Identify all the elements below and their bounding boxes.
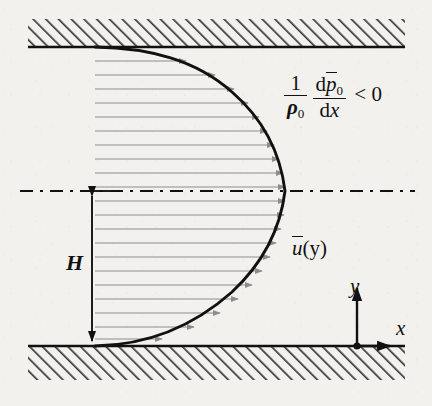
- u-bar-symbol: u: [292, 236, 303, 259]
- fraction-numerator-one: 1: [284, 73, 307, 96]
- u-argument: (y): [303, 236, 328, 260]
- pressure-gradient-label: 1 ρ0 dp0 dx < 0: [284, 72, 382, 121]
- fraction-denominator-dx: dx: [313, 99, 347, 121]
- x-axis-label: x: [396, 316, 405, 341]
- origin-dot: [353, 342, 360, 349]
- channel-flow-figure: [0, 0, 432, 406]
- channel-height-label: H: [66, 250, 83, 276]
- top-wall-hatching: [28, 19, 405, 47]
- fraction-numerator-dp: dp0: [313, 72, 347, 99]
- inequality-relation: < 0: [354, 82, 382, 106]
- fraction-denominator-rho: ρ0: [284, 96, 307, 120]
- mean-velocity-profile-curve: [95, 47, 285, 346]
- bottom-wall: [28, 346, 405, 380]
- bottom-wall-hatching: [28, 347, 405, 380]
- y-axis-label: y: [350, 274, 359, 299]
- pressure-gradient-fraction-2: dp0 dx: [313, 72, 347, 121]
- top-wall: [28, 19, 405, 47]
- velocity-profile-label: u(y): [292, 236, 327, 261]
- pressure-gradient-fraction-1: 1 ρ0: [284, 73, 307, 120]
- channel-height-dimension: [92, 191, 110, 341]
- velocity-vector-field: [95, 61, 285, 339]
